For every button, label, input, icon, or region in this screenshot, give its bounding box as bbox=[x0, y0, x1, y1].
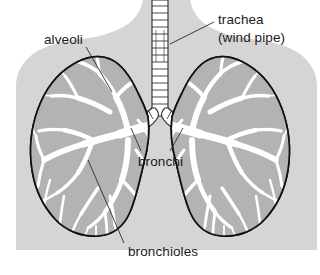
label-alveoli: alveoli bbox=[44, 32, 83, 47]
label-bronchi: bronchi bbox=[138, 154, 183, 169]
lung-diagram: alveoli trachea (wind pipe) bronchi bron… bbox=[0, 0, 320, 275]
trachea bbox=[152, 0, 168, 116]
label-trachea-line1: trachea bbox=[218, 12, 264, 27]
lung-diagram-svg: alveoli trachea (wind pipe) bronchi bron… bbox=[0, 0, 320, 275]
label-bronchioles: bronchioles bbox=[128, 244, 198, 259]
label-trachea-line2: (wind pipe) bbox=[218, 30, 285, 45]
